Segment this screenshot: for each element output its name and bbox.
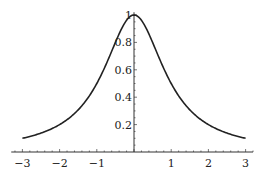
x-tick-label: 1 — [168, 157, 175, 170]
x-tick-label: −2 — [51, 157, 67, 170]
tick-labels: −3−2−11230.20.40.60.81 — [14, 9, 249, 170]
x-tick-label: 2 — [205, 157, 212, 170]
x-tick-label: −3 — [14, 157, 30, 170]
y-tick-label: 0.2 — [115, 119, 133, 132]
x-tick-label: −1 — [89, 157, 105, 170]
x-tick-label: 3 — [242, 157, 249, 170]
y-tick-label: 0.6 — [115, 64, 133, 77]
y-tick-label: 0.4 — [115, 91, 133, 104]
chart: −3−2−11230.20.40.60.81 — [0, 0, 268, 180]
